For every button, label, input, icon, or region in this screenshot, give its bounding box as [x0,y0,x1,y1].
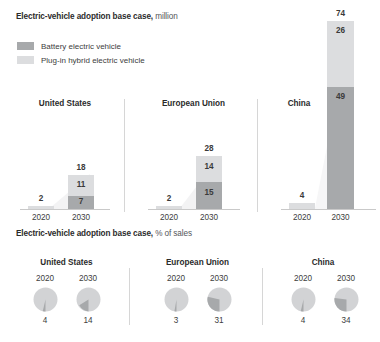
pie-value-european-union-2020: 3 [153,316,199,325]
pie-value-china-2030: 34 [323,316,369,325]
axis-label-united-states-2030: 2030 [68,213,94,222]
pie-value-china-2020: 4 [280,316,326,325]
pie-year-european-union-2020: 2020 [153,274,199,283]
panel-divider-2 [257,99,258,212]
legend-swatch-phev [17,56,34,64]
bar-china-2030: 26 49 [327,21,354,209]
legend-label-phev: Plug-in hybrid electric vehicle [41,56,145,65]
bar-segment-bev-china-2030: 49 [327,87,354,209]
bar-total-label-china-2020: 4 [289,191,315,200]
pie-value-european-union-2030: 31 [196,316,242,325]
legend-swatch-bev [17,42,34,50]
pie-chart-china-2030 [334,287,359,312]
pie-panel-divider-2 [262,268,263,325]
baseline-european-union [148,209,240,210]
pie-panel-title-united-states: United States [4,258,129,267]
pie-chart-european-union-2030 [207,287,232,312]
bar-panel-title-european-union: European Union [130,99,257,108]
pie-panel-united-states: United States 2020 4 2030 14 [4,258,129,328]
bar-segment-phev-european-union-2030: 14 [196,156,222,182]
bar-segment-bev-european-union-2030: 15 [196,182,222,209]
bar-panel-title-united-states: United States [6,99,124,108]
pie-panel-title-china: China [266,258,380,267]
chart-title-million: Electric-vehicle adoption base case, mil… [16,12,178,21]
legend: Battery electric vehicle Plug-in hybrid … [17,39,145,67]
pie-chart-united-states-2020 [33,287,58,312]
chart-title-share-bold: Electric-vehicle adoption base case, [16,229,153,238]
baseline-united-states [20,209,110,210]
chart-title-share-of-sales: Electric-vehicle adoption base case, % o… [16,229,192,238]
panel-divider-1 [124,99,125,212]
axis-label-united-states-2020: 2020 [28,213,54,222]
pie-value-united-states-2030: 14 [65,316,111,325]
legend-item-bev: Battery electric vehicle [17,39,145,53]
legend-label-bev: Battery electric vehicle [41,42,121,51]
bar-total-label-united-states-2020: 2 [28,194,54,203]
pie-year-china-2020: 2020 [280,274,326,283]
axis-label-european-union-2030: 2030 [196,213,222,222]
bar-segment-label-bev-china-2030: 49 [327,92,354,101]
bar-segment-label-phev-united-states-2030: 11 [68,180,94,189]
pie-chart-european-union-2020 [164,287,189,312]
bar-total-label-united-states-2030: 18 [68,163,94,172]
pie-panel-china: China 2020 4 2030 34 [266,258,380,328]
bar-segment-label-phev-european-union-2030: 14 [196,162,222,171]
pie-panel-title-european-union: European Union [133,258,262,267]
pie-panel-european-union: European Union 2020 3 2030 31 [133,258,262,328]
bar-segment-phev-china-2030: 26 [327,21,354,87]
pie-year-united-states-2030: 2030 [65,274,111,283]
bar-segment-bev-united-states-2030: 7 [68,196,94,209]
bar-panel-united-states: United States 2 11 7 18 2020 2030 [6,99,124,214]
bar-total-label-european-union-2020: 2 [156,194,182,203]
pie-panel-divider-1 [129,268,130,325]
chart-title-million-bold: Electric-vehicle adoption base case, [16,12,153,21]
bar-panel-european-union: European Union 2 14 15 28 2020 2030 [130,99,257,214]
bar-segment-phev-united-states-2030: 11 [68,175,94,196]
bar-panel-china: China 4 26 49 74 2020 2030 [263,99,380,214]
bar-total-label-china-2030: 74 [327,9,354,18]
pie-chart-united-states-2030 [76,287,101,312]
pie-year-united-states-2020: 2020 [22,274,68,283]
legend-item-phev: Plug-in hybrid electric vehicle [17,53,145,67]
pie-year-china-2030: 2030 [323,274,369,283]
bar-total-label-european-union-2030: 28 [196,144,222,153]
bar-european-union-2030: 14 15 [196,156,222,209]
axis-label-china-2020: 2020 [289,213,315,222]
bar-segment-label-bev-united-states-2030: 7 [68,197,94,206]
pie-year-european-union-2030: 2030 [196,274,242,283]
axis-label-european-union-2020: 2020 [156,213,182,222]
bar-united-states-2030: 11 7 [68,175,94,209]
bar-segment-label-bev-european-union-2030: 15 [196,188,222,197]
pie-chart-china-2020 [291,287,316,312]
exhibit-root: Electric-vehicle adoption base case, mil… [0,0,380,342]
chart-title-share-unit: % of sales [153,229,192,238]
baseline-china [281,209,376,210]
axis-label-china-2030: 2030 [327,213,354,222]
chart-title-million-unit: million [153,12,178,21]
bar-segment-label-phev-china-2030: 26 [327,26,354,35]
pie-value-united-states-2020: 4 [22,316,68,325]
